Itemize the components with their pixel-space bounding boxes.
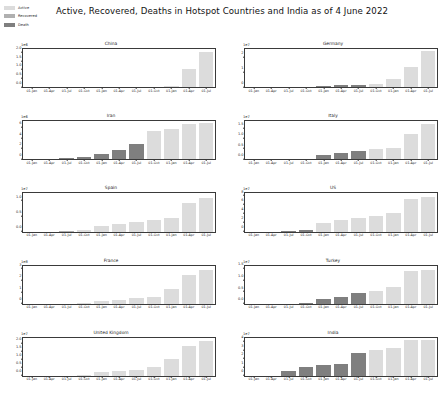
bar-group[interactable] (367, 338, 384, 376)
bar-group[interactable] (297, 338, 314, 376)
bar-group[interactable] (128, 266, 145, 304)
bar-group[interactable] (315, 338, 332, 376)
bar-group[interactable] (420, 121, 437, 159)
bar-group[interactable] (367, 193, 384, 231)
bar-group[interactable] (23, 266, 40, 304)
bar-group[interactable] (23, 121, 40, 159)
bar[interactable] (199, 341, 213, 376)
bar-group[interactable] (385, 49, 402, 87)
bar-group[interactable] (332, 49, 349, 87)
bar[interactable] (112, 224, 126, 231)
bar-group[interactable] (280, 121, 297, 159)
bar-group[interactable] (58, 121, 75, 159)
bar[interactable] (351, 151, 365, 160)
bar-group[interactable] (23, 49, 40, 87)
bar[interactable] (334, 220, 348, 232)
bar[interactable] (334, 153, 348, 160)
bar-group[interactable] (385, 266, 402, 304)
bar-group[interactable] (350, 266, 367, 304)
bar-group[interactable] (297, 121, 314, 159)
bar-group[interactable] (402, 266, 419, 304)
bar[interactable] (351, 353, 365, 376)
bar[interactable] (182, 203, 196, 232)
bar[interactable] (386, 287, 400, 304)
bar[interactable] (182, 124, 196, 159)
bar[interactable] (316, 365, 330, 376)
bar[interactable] (182, 346, 196, 376)
bar-group[interactable] (75, 121, 92, 159)
bar[interactable] (199, 52, 213, 88)
bar-group[interactable] (245, 266, 262, 304)
bar-group[interactable] (350, 49, 367, 87)
bar[interactable] (421, 270, 435, 304)
bar-group[interactable] (163, 193, 180, 231)
bar[interactable] (421, 51, 435, 87)
bar-group[interactable] (163, 266, 180, 304)
bar-group[interactable] (402, 193, 419, 231)
bar[interactable] (129, 222, 143, 231)
bar-group[interactable] (245, 338, 262, 376)
bar[interactable] (164, 359, 178, 376)
bar[interactable] (147, 297, 161, 304)
bar[interactable] (369, 350, 383, 376)
bar-group[interactable] (58, 338, 75, 376)
bar-group[interactable] (23, 193, 40, 231)
bar[interactable] (147, 131, 161, 159)
bar-group[interactable] (145, 121, 162, 159)
bar-group[interactable] (350, 193, 367, 231)
bar-group[interactable] (180, 121, 197, 159)
bar[interactable] (386, 348, 400, 376)
bar[interactable] (112, 150, 126, 160)
bar[interactable] (182, 69, 196, 87)
bar[interactable] (334, 364, 348, 376)
bar-group[interactable] (350, 121, 367, 159)
bar[interactable] (199, 270, 213, 304)
bar-group[interactable] (420, 338, 437, 376)
bar-group[interactable] (40, 338, 57, 376)
bar-group[interactable] (180, 266, 197, 304)
bar[interactable] (299, 367, 313, 376)
bar-group[interactable] (93, 121, 110, 159)
bar[interactable] (369, 149, 383, 159)
bar-group[interactable] (262, 121, 279, 159)
bar-group[interactable] (163, 121, 180, 159)
bar-group[interactable] (75, 338, 92, 376)
bar-group[interactable] (280, 49, 297, 87)
bar-group[interactable] (128, 49, 145, 87)
bar-group[interactable] (315, 49, 332, 87)
bar-group[interactable] (128, 338, 145, 376)
bar-group[interactable] (262, 193, 279, 231)
bar-group[interactable] (110, 193, 127, 231)
bar-group[interactable] (367, 266, 384, 304)
bar-group[interactable] (367, 49, 384, 87)
bar-group[interactable] (145, 49, 162, 87)
bar[interactable] (199, 198, 213, 232)
bar[interactable] (421, 340, 435, 376)
bar-group[interactable] (262, 338, 279, 376)
bar-group[interactable] (420, 266, 437, 304)
bar-group[interactable] (75, 49, 92, 87)
bar-group[interactable] (110, 49, 127, 87)
bar[interactable] (164, 218, 178, 231)
bar-group[interactable] (40, 121, 57, 159)
bar[interactable] (404, 134, 418, 160)
bar-group[interactable] (40, 193, 57, 231)
bar[interactable] (199, 123, 213, 159)
legend-death[interactable]: Death (4, 21, 64, 28)
bar-group[interactable] (420, 49, 437, 87)
bar-group[interactable] (332, 266, 349, 304)
bar[interactable] (404, 340, 418, 376)
bar-group[interactable] (110, 266, 127, 304)
bar-group[interactable] (110, 121, 127, 159)
bar[interactable] (404, 271, 418, 304)
bar[interactable] (147, 220, 161, 232)
bar-group[interactable] (110, 338, 127, 376)
bar-group[interactable] (350, 338, 367, 376)
bar-group[interactable] (297, 193, 314, 231)
bar-group[interactable] (262, 266, 279, 304)
bar[interactable] (351, 218, 365, 232)
bar[interactable] (421, 197, 435, 232)
bar-group[interactable] (262, 49, 279, 87)
bar[interactable] (369, 291, 383, 304)
bar-group[interactable] (93, 338, 110, 376)
